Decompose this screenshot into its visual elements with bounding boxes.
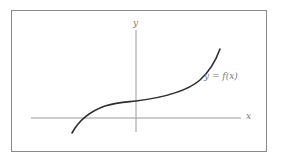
curve-label: y = f(x) [204, 72, 238, 81]
function-graph [0, 0, 281, 161]
curve-f-of-x [72, 49, 220, 133]
x-axis-label: x [246, 112, 251, 121]
y-axis-label: y [133, 19, 138, 28]
